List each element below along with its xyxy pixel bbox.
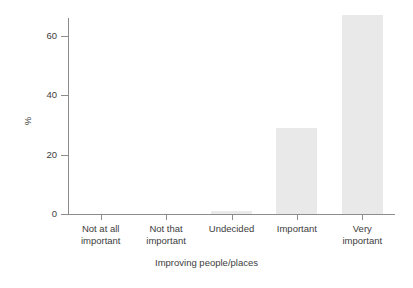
y-tick-label: 60 [46, 31, 57, 41]
x-tick-mark [362, 215, 363, 220]
x-tick-label: Not that important [133, 223, 198, 246]
y-tick-mark [61, 155, 68, 156]
y-tick-label: 40 [46, 90, 57, 100]
x-tick-label: Not at all important [68, 223, 133, 246]
y-tick-label: 20 [46, 150, 57, 160]
y-axis-title: % [23, 117, 33, 125]
bar [342, 15, 383, 214]
x-tick-label: Very important [330, 223, 395, 246]
x-tick-mark [232, 215, 233, 220]
x-tick-label: Undecided [199, 223, 264, 235]
x-tick-mark [166, 215, 167, 220]
x-tick-mark [101, 215, 102, 220]
bar [276, 128, 317, 214]
bar [211, 211, 252, 214]
y-tick-mark [61, 36, 68, 37]
x-axis-title: Improving people/places [0, 257, 413, 268]
bar-series [68, 18, 395, 214]
y-tick-label: 0 [52, 209, 57, 219]
bar-chart: % 6040200 Not at all importantNot that i… [0, 0, 413, 288]
y-tick-mark [61, 214, 68, 215]
x-tick-label: Important [264, 223, 329, 235]
x-tick-mark [297, 215, 298, 220]
y-tick-mark [61, 95, 68, 96]
